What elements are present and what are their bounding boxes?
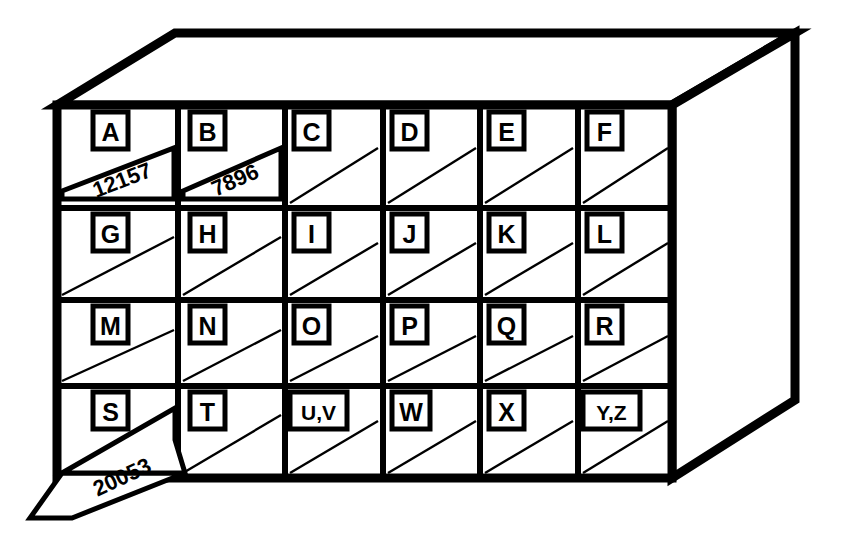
slot-N[interactable]: N — [190, 306, 225, 343]
slot-W-label: W — [399, 398, 423, 426]
slot-O[interactable]: O — [294, 306, 329, 343]
slot-C[interactable]: C — [294, 112, 329, 149]
slot-S[interactable]: S — [93, 392, 128, 429]
slot-G-label: G — [101, 220, 120, 248]
slot-X[interactable]: X — [489, 392, 524, 429]
slot-C-label: C — [302, 118, 320, 146]
slot-M-label: M — [100, 312, 121, 340]
slot-P[interactable]: P — [392, 306, 427, 343]
slot-J[interactable]: J — [392, 214, 427, 251]
slot-L-label: L — [597, 220, 612, 248]
slot-M[interactable]: M — [93, 306, 128, 343]
slot-J-label: J — [403, 220, 417, 248]
slot-YZ[interactable]: Y,Z — [583, 392, 640, 429]
slot-N-label: N — [198, 312, 216, 340]
slot-S-label: S — [102, 398, 119, 426]
slot-T-label: T — [200, 398, 215, 426]
slot-H[interactable]: H — [190, 214, 225, 251]
slot-K-label: K — [497, 220, 515, 248]
slot-F[interactable]: F — [587, 112, 622, 149]
slot-R[interactable]: R — [587, 306, 622, 343]
slot-P-label: P — [401, 312, 418, 340]
slot-B-label: B — [198, 118, 216, 146]
slot-YZ-label: Y,Z — [596, 401, 627, 424]
slot-T[interactable]: T — [190, 392, 225, 429]
slot-E[interactable]: E — [489, 112, 524, 149]
slot-L[interactable]: L — [587, 214, 622, 251]
slot-Q[interactable]: Q — [489, 306, 524, 343]
slot-UV-label: U,V — [301, 401, 336, 424]
slot-F-label: F — [597, 118, 612, 146]
slot-D[interactable]: D — [392, 112, 427, 149]
slot-G[interactable]: G — [93, 214, 128, 251]
slot-E-label: E — [498, 118, 515, 146]
slot-I-label: I — [308, 220, 315, 248]
slot-I[interactable]: I — [294, 214, 329, 251]
slot-H-label: H — [198, 220, 216, 248]
slot-O-label: O — [302, 312, 321, 340]
slot-A[interactable]: A — [93, 112, 128, 149]
slot-UV[interactable]: U,V — [290, 392, 347, 429]
slot-W[interactable]: W — [392, 392, 430, 429]
slot-X-label: X — [498, 398, 515, 426]
slot-A-label: A — [101, 118, 119, 146]
cabinet-side-face — [672, 33, 795, 478]
slot-B[interactable]: B — [190, 112, 225, 149]
slot-R-label: R — [595, 312, 613, 340]
slot-Q-label: Q — [497, 312, 516, 340]
cabinet-drawing: 12157 7896 20053 A B C — [0, 0, 846, 543]
slot-K[interactable]: K — [489, 214, 524, 251]
slot-D-label: D — [400, 118, 418, 146]
storage-cabinet-figure: 12157 7896 20053 A B C — [0, 0, 846, 543]
